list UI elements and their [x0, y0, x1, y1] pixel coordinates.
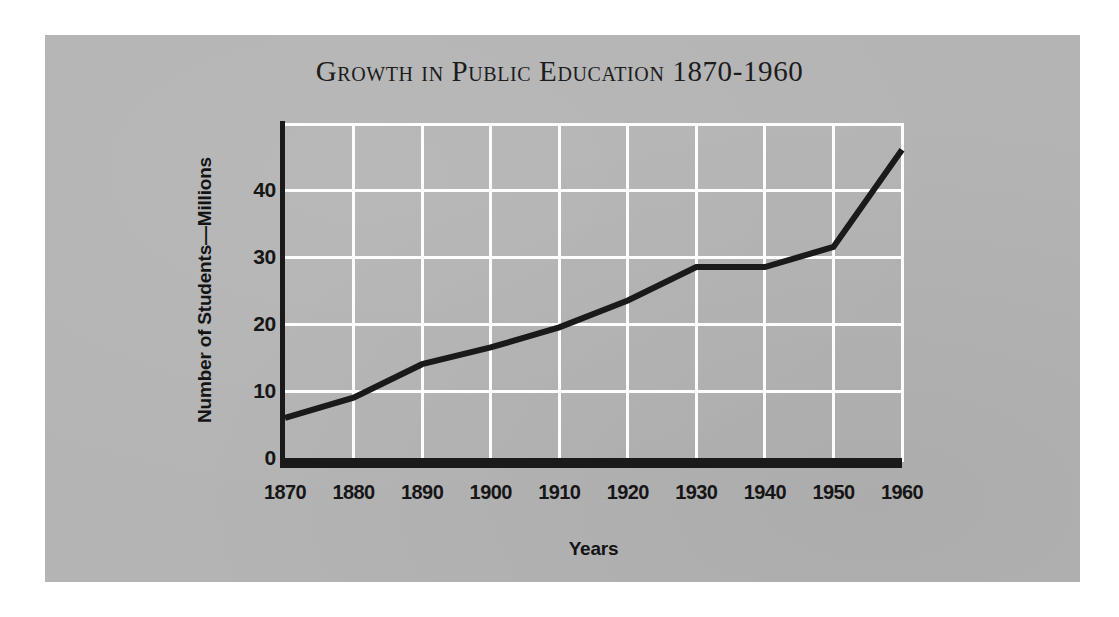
x-tick-label-1870: 1870	[250, 481, 320, 504]
y-tick-label-20: 20	[222, 312, 276, 336]
x-tick-label-1940: 1940	[730, 481, 800, 504]
y-axis-title: Number of Students—Millions	[194, 157, 216, 423]
chart-figure: Growth in Public Education 1870-1960 Num…	[0, 0, 1119, 617]
y-tick-label-30: 30	[222, 245, 276, 269]
x-tick-label-1890: 1890	[387, 481, 457, 504]
y-tick-label-10: 10	[222, 379, 276, 403]
data-series-line	[285, 123, 902, 462]
x-tick-label-1950: 1950	[798, 481, 868, 504]
plot-area	[285, 123, 902, 462]
chart-title: Growth in Public Education 1870-1960	[0, 55, 1119, 88]
y-tick-label-40: 40	[222, 178, 276, 202]
x-tick-label-1920: 1920	[593, 481, 663, 504]
x-tick-label-1910: 1910	[524, 481, 594, 504]
x-axis-tick-labels: 1870188018901900191019201930194019501960	[285, 481, 902, 507]
y-axis-tick-labels: 010203040	[222, 123, 276, 462]
y-tick-label-0: 0	[222, 446, 276, 470]
x-tick-label-1960: 1960	[867, 481, 937, 504]
x-tick-label-1900: 1900	[456, 481, 526, 504]
x-tick-label-1930: 1930	[661, 481, 731, 504]
x-tick-label-1880: 1880	[319, 481, 389, 504]
x-axis-title: Years	[285, 538, 902, 560]
